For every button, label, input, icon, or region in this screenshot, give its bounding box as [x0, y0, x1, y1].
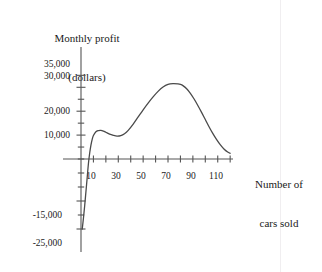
profit-curve [82, 84, 230, 229]
chart-figure: Monthly profit (dollars) Number of cars … [0, 0, 322, 272]
chart-plot-area [0, 0, 322, 272]
axis-lines [63, 47, 233, 252]
